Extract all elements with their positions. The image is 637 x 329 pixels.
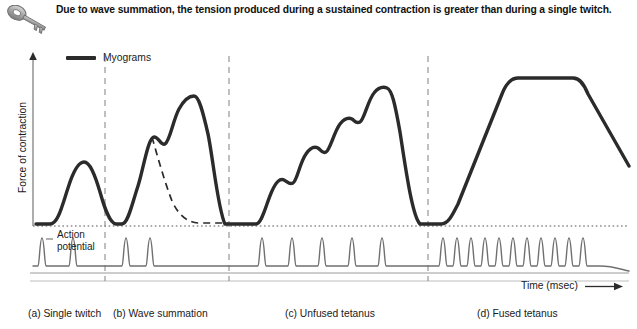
phase-caption-b: (b) Wave summation <box>113 308 208 319</box>
x-axis-label-text: Time (msec) <box>521 280 578 291</box>
action-potential-label-line1: Action <box>57 229 95 241</box>
legend: Myograms <box>66 52 151 63</box>
phase-caption-c: (c) Unfused tetanus <box>285 308 375 319</box>
action-potential-trace <box>33 238 629 271</box>
action-potential-label-line2: potential <box>57 241 95 253</box>
key-icon <box>2 5 54 39</box>
myogram-figure: Myograms Force of contraction Action pot… <box>0 38 637 293</box>
x-axis-arrow-icon <box>585 282 625 291</box>
myogram-trace <box>36 78 629 224</box>
header-caption: Due to wave summation, the tension produ… <box>56 4 634 16</box>
y-axis <box>29 52 37 226</box>
legend-swatch-myograms <box>66 56 96 60</box>
myogram-chart <box>0 38 637 293</box>
x-axis-label: Time (msec) <box>521 280 625 291</box>
figure-page: Due to wave summation, the tension produ… <box>0 0 637 329</box>
phase-caption-d: (d) Fused tetanus <box>477 308 558 319</box>
action-potential-label: Action potential <box>57 229 95 252</box>
phase-caption-a: (a) Single twitch <box>28 308 101 319</box>
legend-label-myograms: Myograms <box>103 52 151 63</box>
y-axis-label: Force of contraction <box>17 78 28 218</box>
